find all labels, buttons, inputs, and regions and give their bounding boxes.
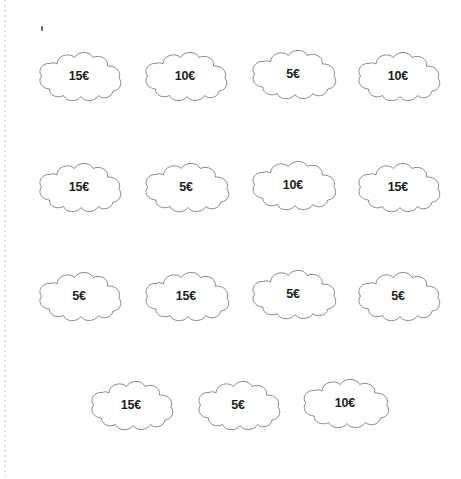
cloud-card-r2-c4[interactable]: 15€: [353, 160, 443, 218]
cloud-card-r1-c4[interactable]: 10€: [353, 49, 443, 107]
cloud-card-r2-c1[interactable]: 15€: [34, 160, 124, 218]
cloud-amount-label: 15€: [34, 49, 124, 107]
cloud-card-r1-c1[interactable]: 15€: [34, 49, 124, 107]
cloud-amount-label: 5€: [140, 160, 232, 218]
cloud-amount-label: 5€: [193, 378, 283, 436]
cloud-card-r2-c3[interactable]: 10€: [247, 158, 339, 216]
cloud-card-r4-c1[interactable]: 15€: [86, 378, 176, 436]
cloud-amount-label: 15€: [353, 160, 443, 218]
cloud-amount-label: 10€: [298, 376, 392, 434]
cloud-card-r1-c2[interactable]: 10€: [140, 49, 230, 107]
cloud-amount-label: 5€: [353, 269, 443, 327]
cloud-amount-label: 15€: [140, 269, 232, 327]
cloud-amount-label: 5€: [247, 267, 339, 325]
cloud-amount-label: 15€: [34, 160, 124, 218]
cloud-card-r4-c3[interactable]: 10€: [298, 376, 392, 434]
cloud-amount-label: 10€: [247, 158, 339, 216]
cloud-amount-label: 10€: [353, 49, 443, 107]
worksheet-page: 15€ 10€ 5€ 10€ 15€ 5€ 10€ 15€: [0, 0, 461, 479]
cloud-card-r3-c3[interactable]: 5€: [247, 267, 339, 325]
cloud-card-r2-c2[interactable]: 5€: [140, 160, 232, 218]
cloud-amount-label: 5€: [247, 47, 339, 105]
page-margin-rule: [4, 0, 6, 479]
cloud-amount-label: 5€: [34, 269, 124, 327]
ink-speck-mark: [41, 26, 43, 31]
cloud-amount-label: 10€: [140, 49, 230, 107]
cloud-card-r3-c2[interactable]: 15€: [140, 269, 232, 327]
cloud-card-r4-c2[interactable]: 5€: [193, 378, 283, 436]
cloud-amount-label: 15€: [86, 378, 176, 436]
cloud-card-r3-c1[interactable]: 5€: [34, 269, 124, 327]
cloud-card-r1-c3[interactable]: 5€: [247, 47, 339, 105]
cloud-card-r3-c4[interactable]: 5€: [353, 269, 443, 327]
